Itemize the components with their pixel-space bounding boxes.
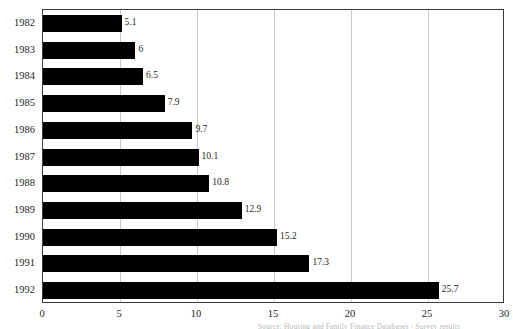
x-axis-tick-label: 15: [268, 306, 279, 321]
bar-value-label: 17.3: [308, 254, 329, 271]
x-axis-tick-label: 30: [499, 306, 510, 321]
y-axis-tick-label: 1989: [0, 201, 38, 218]
bar-value-label: 9.7: [191, 121, 207, 138]
x-axis-tick-labels: 051015202530: [42, 306, 504, 322]
bar-value-label: 25.7: [438, 281, 459, 298]
bar-value-label: 15.2: [276, 228, 297, 245]
x-axis-tick-label: 25: [422, 306, 433, 321]
bar-value-label: 5.1: [121, 14, 137, 31]
y-axis-tick-label: 1990: [0, 228, 38, 245]
y-axis-tick-label: 1991: [0, 254, 38, 271]
y-axis-tick-label: 1982: [0, 14, 38, 31]
y-axis-tick-label: 1983: [0, 41, 38, 58]
y-axis-tick-label: 1987: [0, 148, 38, 165]
y-axis-tick-label: 1988: [0, 174, 38, 191]
bar-chart-figure: 5.166.57.99.710.110.812.915.217.325.7 19…: [0, 0, 513, 329]
bar-value-label: 10.8: [208, 174, 229, 191]
y-axis-tick-labels: 1982198319841985198619871988198919901991…: [0, 9, 38, 303]
y-axis-tick-label: 1984: [0, 67, 38, 84]
x-axis-tick-label: 10: [191, 306, 202, 321]
y-axis-tick-label: 1986: [0, 121, 38, 138]
x-axis-tick-label: 20: [345, 306, 356, 321]
y-axis-tick-label: 1992: [0, 281, 38, 298]
bar-value-label: 7.9: [164, 94, 180, 111]
bar-value-label: 6: [134, 41, 143, 58]
y-axis-tick-label: 1985: [0, 94, 38, 111]
bar-value-label: 6.5: [142, 67, 158, 84]
bar-value-label: 10.1: [198, 148, 219, 165]
x-axis-tick-label: 0: [39, 306, 44, 321]
bar-value-labels: 5.166.57.99.710.110.812.915.217.325.7: [42, 9, 504, 303]
source-caption: Source: Housing and Family Finance Datab…: [258, 322, 513, 329]
bar-value-label: 12.9: [241, 201, 262, 218]
x-axis-tick-label: 5: [116, 306, 121, 321]
